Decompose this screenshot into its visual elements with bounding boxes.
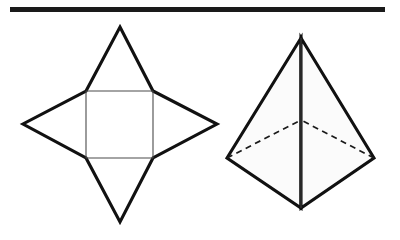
geometry-figure-svg	[0, 0, 400, 240]
pyramid-left-front-face	[227, 38, 301, 208]
pyramid-right-front-face	[301, 38, 374, 208]
net-outline-star-path	[23, 27, 217, 222]
solid-pyramid-figure	[227, 38, 374, 208]
net-figure	[23, 27, 217, 222]
figure-page: Net of a square pyramid Square pyramid s…	[0, 0, 400, 240]
horizontal-rule	[10, 7, 385, 12]
